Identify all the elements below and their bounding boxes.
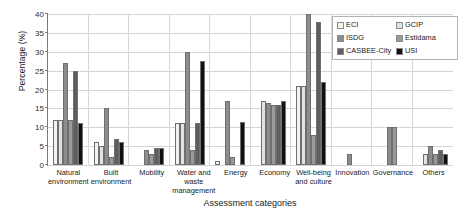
legend-label: Estidama <box>405 34 436 42</box>
bar[interactable] <box>215 161 220 165</box>
bar-group <box>251 14 292 165</box>
x-tick-label: Others <box>414 168 453 195</box>
x-tick-label: Natural environment <box>47 168 90 195</box>
y-tick-label: 25 <box>35 66 44 75</box>
bar[interactable] <box>321 82 326 165</box>
y-tick-label: 0 <box>40 161 44 170</box>
bar-group <box>170 14 211 165</box>
bar[interactable] <box>240 122 245 165</box>
y-tick-label: 5 <box>40 142 44 151</box>
y-tick-label: 15 <box>35 104 44 113</box>
x-axis-tick-labels: Natural environmentBuilt environmentMobi… <box>47 168 453 195</box>
x-tick-label: Water and waste management <box>171 168 216 195</box>
legend-swatch-icon <box>337 48 344 55</box>
y-tick-label: 30 <box>35 47 44 56</box>
legend-label: CASBEE-City <box>346 47 391 55</box>
bar[interactable] <box>392 127 397 165</box>
x-tick-label: Economy <box>255 168 294 195</box>
y-tick-label: 35 <box>35 28 44 37</box>
bar-group <box>129 14 170 165</box>
bar[interactable] <box>159 148 164 165</box>
legend-label: ISDG <box>346 34 364 42</box>
legend-swatch-icon <box>396 35 403 42</box>
x-tick-label: Governance <box>372 168 414 195</box>
bar[interactable] <box>200 61 205 165</box>
legend-swatch-icon <box>396 22 403 29</box>
bar-group <box>89 14 130 165</box>
bar[interactable] <box>230 157 235 165</box>
bar-chart-figure: Percentage (%) 0510152025303540 Natural … <box>0 0 468 214</box>
legend-label: ECI <box>346 21 358 29</box>
x-tick-label: Built environment <box>90 168 133 195</box>
bar-group <box>291 14 332 165</box>
legend-item[interactable]: ISDG <box>337 34 393 42</box>
legend-swatch-icon <box>396 48 403 55</box>
y-axis-title: Percentage (%) <box>17 1 27 121</box>
legend-item[interactable]: Estidama <box>396 34 452 42</box>
x-tick-label: Innovation <box>333 168 372 195</box>
bar-group <box>48 14 89 165</box>
y-tick-label: 40 <box>35 10 44 19</box>
y-tick-label: 10 <box>35 123 44 132</box>
bar[interactable] <box>225 101 230 165</box>
legend-item[interactable]: CASBEE-City <box>337 47 393 55</box>
bar[interactable] <box>281 101 286 165</box>
x-axis-title: Assessment categories <box>47 198 453 208</box>
legend-label: GCIP <box>405 21 423 29</box>
legend-item[interactable]: GCIP <box>396 21 452 29</box>
x-tick-label: Well-being and culture <box>294 168 333 195</box>
legend-label: USI <box>405 47 417 55</box>
chart-legend: ECIGCIPISDGEstidamaCASBEE-CityUSI <box>332 16 458 60</box>
bar[interactable] <box>78 123 83 165</box>
bar-group <box>210 14 251 165</box>
bar[interactable] <box>443 154 448 165</box>
bar[interactable] <box>185 52 190 165</box>
legend-item[interactable]: USI <box>396 47 452 55</box>
y-tick-label: 20 <box>35 85 44 94</box>
legend-swatch-icon <box>337 35 344 42</box>
legend-swatch-icon <box>337 22 344 29</box>
legend-item[interactable]: ECI <box>337 21 393 29</box>
gridline <box>48 165 453 166</box>
bar[interactable] <box>119 142 124 165</box>
x-tick-label: Mobility <box>132 168 171 195</box>
bar[interactable] <box>347 154 352 165</box>
x-tick-label: Energy <box>216 168 255 195</box>
